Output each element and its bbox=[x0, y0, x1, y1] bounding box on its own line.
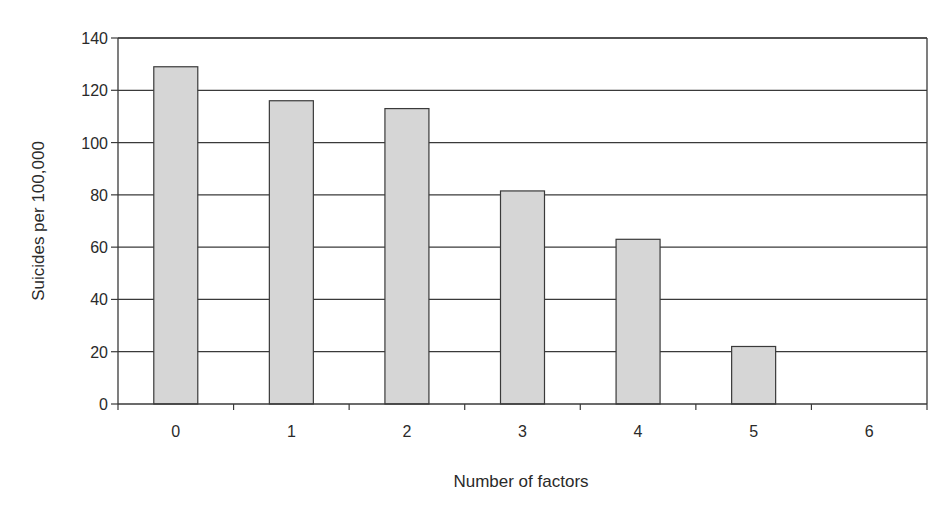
x-tick-label: 6 bbox=[865, 423, 874, 440]
bars bbox=[154, 67, 776, 404]
x-axis-ticks: 0123456 bbox=[118, 404, 927, 440]
y-tick-label: 20 bbox=[90, 344, 108, 361]
x-tick-label: 1 bbox=[287, 423, 296, 440]
bar-2 bbox=[385, 109, 429, 404]
y-tick-label: 40 bbox=[90, 291, 108, 308]
y-axis-title: Suicides per 100,000 bbox=[29, 141, 48, 301]
x-tick-label: 2 bbox=[402, 423, 411, 440]
y-axis-ticks: 020406080100120140 bbox=[81, 30, 118, 413]
y-tick-label: 100 bbox=[81, 135, 108, 152]
y-tick-label: 60 bbox=[90, 239, 108, 256]
x-tick-label: 0 bbox=[171, 423, 180, 440]
y-tick-label: 120 bbox=[81, 82, 108, 99]
x-axis-title: Number of factors bbox=[453, 472, 588, 491]
y-tick-label: 80 bbox=[90, 187, 108, 204]
bar-0 bbox=[154, 67, 198, 404]
y-tick-label: 140 bbox=[81, 30, 108, 47]
y-tick-label: 0 bbox=[99, 396, 108, 413]
bar-3 bbox=[501, 191, 545, 404]
bar-4 bbox=[616, 239, 660, 404]
bar-5 bbox=[732, 346, 776, 404]
x-tick-label: 3 bbox=[518, 423, 527, 440]
bar-1 bbox=[269, 101, 313, 404]
x-tick-label: 4 bbox=[634, 423, 643, 440]
bar-chart: 020406080100120140 0123456 Suicides per … bbox=[0, 0, 951, 515]
x-tick-label: 5 bbox=[749, 423, 758, 440]
